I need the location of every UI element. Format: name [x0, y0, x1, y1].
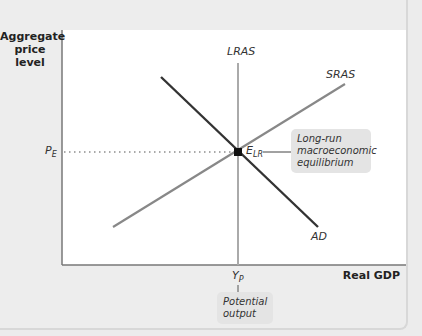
y-axis-label-line: level: [0, 56, 60, 69]
potential-output-callout: Potential output: [217, 292, 273, 324]
y-axis-label-line: Aggregate: [0, 30, 60, 43]
pe-main: P: [45, 144, 52, 157]
y-axis-label: Aggregate price level: [0, 30, 60, 69]
elr-sub: LR: [253, 150, 263, 159]
callout-line: macroeconomic: [297, 145, 365, 157]
yp-label: YP: [232, 269, 244, 282]
pe-sub: E: [52, 150, 57, 159]
ad-label: AD: [311, 230, 327, 243]
x-axis-label: Real GDP: [343, 269, 400, 282]
callout-line: equilibrium: [297, 157, 365, 169]
elr-main: E: [246, 144, 253, 157]
yp-main: Y: [232, 269, 239, 282]
callout-line: Long-run: [297, 133, 365, 145]
sras-label: SRAS: [326, 68, 355, 81]
pe-label: PE: [45, 144, 57, 157]
equilibrium-point: [234, 148, 242, 156]
callout-line: Potential: [223, 296, 267, 308]
equilibrium-callout: Long-run macroeconomic equilibrium: [291, 129, 371, 173]
yp-sub: P: [239, 275, 244, 284]
y-axis-label-line: price: [0, 43, 60, 56]
lras-label: LRAS: [227, 45, 255, 58]
callout-line: output: [223, 308, 267, 320]
elr-label: ELR: [246, 144, 263, 157]
